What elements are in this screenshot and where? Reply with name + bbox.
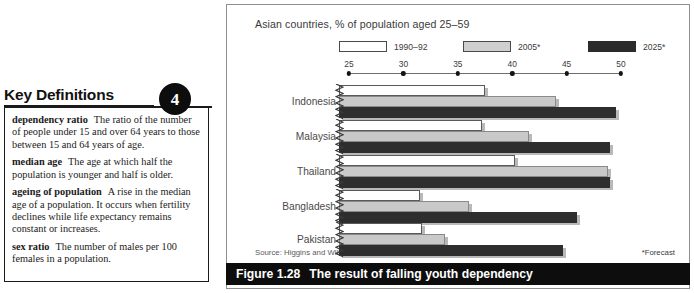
chapter-number-badge: 4 <box>160 84 190 114</box>
x-axis-tick-label: 30 <box>399 59 408 69</box>
x-axis-tick-label: 35 <box>453 59 462 69</box>
chart-category-label: Pakistan <box>297 234 336 245</box>
chart-bar <box>339 85 485 96</box>
definition-term: sex ratio <box>12 241 49 252</box>
chart-bar <box>339 166 608 177</box>
x-axis-tick-dot <box>456 71 460 75</box>
chart-bar <box>339 131 529 142</box>
figure-number: Figure 1.28 <box>236 267 300 281</box>
key-definitions-list: dependency ratioThe ratio of the number … <box>12 114 202 271</box>
figure-caption-text: The result of falling youth dependency <box>309 267 532 281</box>
definition-entry: ageing of populationA rise in the median… <box>12 186 202 235</box>
chart-category-label: Malaysia <box>296 131 336 142</box>
chart-category-label: Indonesia <box>292 96 336 107</box>
key-definitions-title-underline <box>4 105 154 108</box>
x-axis-tick-dot <box>347 71 351 75</box>
chart-bar <box>339 177 610 188</box>
chart-bar <box>339 212 577 223</box>
figure-caption-bar: Figure 1.28 The result of falling youth … <box>226 263 690 285</box>
definition-entry: median ageThe age at which half the popu… <box>12 156 202 181</box>
chart-bar <box>339 120 482 131</box>
chart-category-label: Thailand <box>297 166 336 177</box>
chart-bar <box>339 155 515 166</box>
chart-category-label: Bangladesh <box>282 201 336 212</box>
chart-bar <box>339 245 563 256</box>
broken-axis-zigzag-icon <box>335 84 344 119</box>
definition-entry: sex ratioThe number of males per 100 fem… <box>12 241 202 266</box>
broken-axis-zigzag-icon <box>335 189 344 224</box>
chart-bar <box>339 190 420 201</box>
definition-term: median age <box>12 156 62 167</box>
definition-term: dependency ratio <box>12 114 88 125</box>
figure-panel: Asian countries, % of population aged 25… <box>226 4 690 289</box>
definition-entry: dependency ratioThe ratio of the number … <box>12 114 202 151</box>
definition-term: ageing of population <box>12 186 102 197</box>
x-axis-tick-dot <box>401 71 405 75</box>
key-definitions-panel: Key Definitions 4 dependency ratioThe ra… <box>0 86 213 284</box>
chart-bar <box>339 96 556 107</box>
chart-bar <box>339 223 422 234</box>
x-axis-tick-label: 40 <box>508 59 517 69</box>
x-axis-tick-label: 50 <box>616 59 625 69</box>
broken-axis-zigzag-icon <box>335 154 344 189</box>
x-axis-tick-label: 25 <box>344 59 353 69</box>
chart-bar <box>339 201 469 212</box>
chart-forecast-note: *Forecast <box>642 248 675 257</box>
x-axis-tick-dot <box>564 71 568 75</box>
key-definitions-title: Key Definitions <box>4 86 114 104</box>
chart-bar <box>339 142 610 153</box>
x-axis-tick-label: 45 <box>562 59 571 69</box>
chart-bar <box>339 107 616 118</box>
chart-bar <box>339 234 445 245</box>
x-axis-tick-dot <box>510 71 514 75</box>
chart-x-axis <box>349 73 621 74</box>
x-axis-tick-dot <box>619 71 623 75</box>
broken-axis-zigzag-icon <box>335 222 344 257</box>
broken-axis-zigzag-icon <box>335 119 344 154</box>
